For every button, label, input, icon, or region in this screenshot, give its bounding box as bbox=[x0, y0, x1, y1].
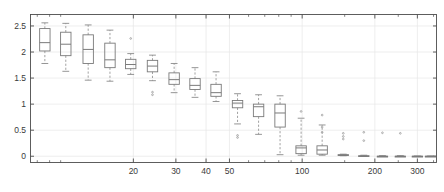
boxplot-figure: 00.511.522.520304050100200300 bbox=[0, 0, 444, 192]
box-group bbox=[232, 94, 242, 139]
outlier-point bbox=[399, 132, 401, 134]
box-iqr bbox=[169, 73, 179, 84]
box-group bbox=[147, 55, 157, 95]
outlier-point bbox=[321, 126, 323, 128]
outlier-point bbox=[237, 135, 239, 137]
box-iqr bbox=[190, 79, 200, 90]
y-axis-tick-label: 1 bbox=[21, 99, 26, 109]
box-iqr bbox=[105, 43, 115, 67]
box-group bbox=[275, 96, 285, 155]
outlier-point bbox=[130, 38, 132, 40]
y-axis-tick-label: 0.5 bbox=[14, 125, 26, 135]
outlier-point bbox=[342, 132, 344, 134]
outlier-point bbox=[152, 91, 154, 93]
x-axis-tick-label: 300 bbox=[410, 166, 424, 176]
box-group bbox=[190, 68, 200, 98]
box-iqr bbox=[211, 84, 221, 96]
box-group bbox=[105, 30, 115, 81]
box-iqr bbox=[126, 59, 136, 68]
box-group bbox=[83, 25, 93, 80]
box-group bbox=[412, 156, 422, 157]
box-group bbox=[395, 132, 405, 157]
box-group bbox=[61, 23, 71, 71]
boxplot-canvas: 00.511.522.520304050100200300 bbox=[0, 0, 444, 192]
box-group bbox=[126, 38, 136, 75]
outlier-point bbox=[382, 132, 384, 134]
y-axis-tick-label: 0 bbox=[21, 151, 26, 161]
outlier-point bbox=[300, 111, 302, 113]
box-iqr bbox=[275, 104, 285, 127]
box-group bbox=[359, 131, 369, 156]
x-axis-tick-label: 200 bbox=[368, 166, 382, 176]
x-axis-tick-label: 100 bbox=[295, 166, 309, 176]
box-group bbox=[296, 111, 306, 156]
outlier-point bbox=[363, 131, 365, 133]
box-group bbox=[40, 23, 50, 64]
box-group bbox=[211, 72, 221, 102]
plot-frame bbox=[31, 15, 437, 163]
box-group bbox=[425, 156, 435, 157]
x-axis-tick-label: 20 bbox=[129, 166, 139, 176]
x-axis-tick-label: 50 bbox=[225, 166, 235, 176]
x-axis-tick-label: 30 bbox=[171, 166, 181, 176]
outlier-point bbox=[152, 94, 154, 96]
outlier-point bbox=[342, 138, 344, 140]
box-iqr bbox=[40, 29, 50, 51]
box-iqr bbox=[253, 104, 263, 117]
box-iqr bbox=[296, 146, 306, 154]
outlier-point bbox=[237, 137, 239, 139]
x-axis-tick-label: 40 bbox=[201, 166, 211, 176]
y-axis-tick-label: 2 bbox=[21, 47, 26, 57]
box-group bbox=[253, 95, 263, 135]
outlier-point bbox=[342, 136, 344, 138]
outlier-point bbox=[363, 140, 365, 142]
box-group bbox=[317, 114, 327, 155]
outlier-point bbox=[321, 114, 323, 116]
y-axis-tick-label: 2.5 bbox=[14, 21, 26, 31]
box-group bbox=[338, 132, 348, 155]
box-group bbox=[377, 132, 387, 157]
y-axis-tick-label: 1.5 bbox=[14, 73, 26, 83]
